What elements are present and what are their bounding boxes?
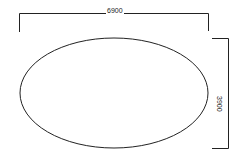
width-dimension-line <box>20 14 209 33</box>
height-dimension-label: 3900 <box>216 95 223 113</box>
width-dimension-label: 6900 <box>106 7 124 14</box>
diagram-canvas <box>0 0 239 164</box>
ellipse-shape <box>20 38 208 148</box>
height-dimension-line <box>212 39 229 149</box>
